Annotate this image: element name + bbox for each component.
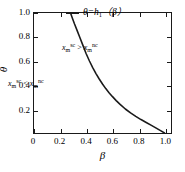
- annotation-region-lower: xmsc<xmnc: [8, 78, 44, 89]
- x-tick-label: 1.0: [160, 137, 171, 146]
- y-tick-label: 1.0: [19, 8, 30, 17]
- curve-path: [71, 13, 165, 133]
- curve-series-h1: [34, 13, 171, 133]
- x-tick-mark: [34, 129, 35, 133]
- x-tick-mark: [140, 129, 141, 133]
- y-tick-mark: [34, 37, 38, 38]
- x-tick-mark: [166, 129, 167, 133]
- y-tick-mark-right: [167, 111, 171, 112]
- x-tick-mark-top: [61, 13, 62, 17]
- x-tick-mark-top: [140, 13, 141, 17]
- x-tick-mark: [113, 129, 114, 133]
- y-tick-mark: [34, 13, 38, 14]
- y-tick-mark-right: [167, 37, 171, 38]
- x-tick-mark-top: [166, 13, 167, 17]
- legend-line-swatch: [66, 12, 79, 14]
- x-tick-label: 0: [31, 137, 36, 146]
- annotation-relation: <: [21, 79, 30, 88]
- x-tick-label: 0.6: [107, 137, 118, 146]
- annotation-superscript: nc: [38, 78, 44, 84]
- y-axis-label: θ: [0, 67, 9, 72]
- legend-label: θ=h1（β）: [83, 8, 127, 19]
- annotation-region-upper: xmsc>xmnc: [62, 42, 98, 53]
- legend: θ=h1（β）: [66, 8, 127, 19]
- x-tick-mark: [61, 129, 62, 133]
- plot-area: [33, 12, 172, 134]
- x-tick-label: 0.4: [80, 137, 91, 146]
- y-tick-mark: [34, 62, 38, 63]
- y-tick-label: 0.6: [19, 56, 30, 65]
- y-tick-label: 0.8: [19, 32, 30, 41]
- y-tick-mark: [34, 111, 38, 112]
- legend-label-prefix: θ=h: [83, 7, 99, 17]
- x-tick-mark: [87, 129, 88, 133]
- annotation-superscript: nc: [92, 42, 98, 48]
- x-axis-label: β: [33, 150, 172, 161]
- y-tick-label: 0.2: [19, 105, 30, 114]
- annotation-relation: >: [75, 43, 84, 52]
- chart-figure: 1.0 0.8 0.6 0.4 0.2 θ: [0, 0, 185, 172]
- y-tick-mark-right: [167, 86, 171, 87]
- x-tick-label: 0.2: [54, 137, 65, 146]
- legend-label-suffix: （β）: [102, 7, 127, 17]
- x-tick-label: 0.8: [133, 137, 144, 146]
- y-tick-mark-right: [167, 62, 171, 63]
